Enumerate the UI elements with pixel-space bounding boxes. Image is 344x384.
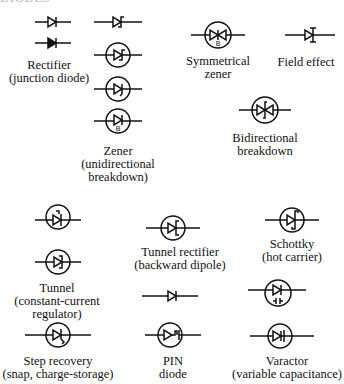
- label-symmetrical-zener: Symmetrical zener: [186, 55, 250, 81]
- label-varactor: Varactor (variable capacitance): [232, 355, 342, 381]
- varactor-diode-icon: [250, 322, 314, 350]
- zener-diode-icon: [94, 14, 142, 30]
- label-bidirectional-breakdown: Bidirectional breakdown: [232, 132, 297, 158]
- zener-diode-b-icon: B: [94, 108, 142, 134]
- section-title: DIODES: [0, 0, 50, 6]
- tunnel-diode-icon: [35, 203, 81, 231]
- zener-diode-enclosed-icon: [94, 42, 142, 68]
- schottky-diode-icon: [265, 206, 319, 234]
- diode-icon: [142, 288, 198, 304]
- zener-diode-enclosed-variant-icon: [94, 76, 142, 102]
- rectifier-diode-outline-icon: [35, 14, 71, 30]
- label-field-effect: Field effect: [277, 56, 334, 69]
- tunnel-diode-regulator-icon: [35, 248, 81, 276]
- label-schottky: Schottky (hot carrier): [262, 238, 322, 264]
- pin-diode-icon: [145, 321, 201, 349]
- field-effect-diode-icon: [285, 27, 335, 43]
- label-tunnel: Tunnel (constant-current regulator): [14, 282, 99, 321]
- label-zener: Zener (unidirectional breakdown): [81, 145, 155, 184]
- label-tunnel-rectifier: Tunnel rectifier (backward dipole): [134, 246, 225, 272]
- label-step-recovery: Step recovery (snap, charge-storage): [3, 355, 114, 381]
- rectifier-diode-filled-icon: [35, 35, 71, 51]
- symmetrical-zener-icon: B: [191, 21, 245, 49]
- step-recovery-diode-icon: [25, 321, 91, 349]
- svg-text:B: B: [216, 40, 221, 47]
- label-rectifier: Rectifier (junction diode): [9, 59, 89, 85]
- label-pin-diode: PIN diode: [159, 355, 187, 381]
- tunnel-rectifier-icon: [146, 214, 200, 242]
- capacitive-diode-icon: [248, 278, 306, 308]
- svg-text:B: B: [116, 125, 121, 132]
- bidirectional-breakdown-icon: [239, 96, 291, 124]
